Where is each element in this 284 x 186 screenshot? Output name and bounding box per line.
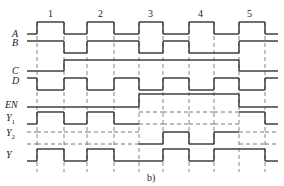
pulse-number-4: 4 <box>198 9 203 19</box>
pulse-number-3: 3 <box>148 9 153 19</box>
signal-label-b: B <box>12 38 18 48</box>
pulse-number-2: 2 <box>98 9 103 19</box>
waveform-y1 <box>27 112 278 124</box>
waveform-y2 <box>27 132 278 144</box>
timing-diagram <box>0 0 284 186</box>
waveform-a <box>27 22 278 34</box>
waveform-b <box>27 41 278 53</box>
signal-waveforms <box>27 22 278 161</box>
signal-label-y1: Y1 <box>6 113 15 127</box>
waveform-d <box>27 78 278 90</box>
pulse-number-1: 1 <box>48 9 53 19</box>
pulse-number-5: 5 <box>247 9 252 19</box>
signal-label-y2: Y2 <box>6 128 15 142</box>
waveform-en <box>27 94 278 107</box>
signal-label-y: Y <box>6 150 12 160</box>
signal-label-d: D <box>12 76 19 86</box>
signal-label-en: EN <box>5 100 18 110</box>
figure-caption: b) <box>147 173 155 183</box>
waveform-y <box>27 149 278 161</box>
waveform-c <box>27 60 278 71</box>
